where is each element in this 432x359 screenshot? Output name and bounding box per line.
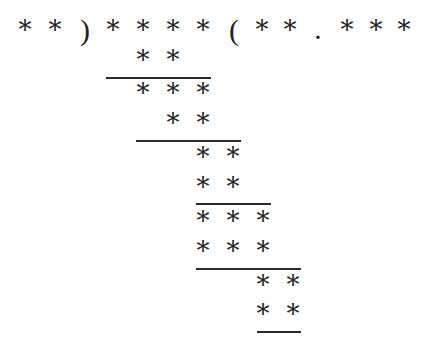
hidden-digit-star: *	[253, 239, 273, 263]
hidden-digit-star: *	[223, 145, 243, 169]
hidden-digit-star: *	[223, 175, 243, 199]
hidden-digit-star: *	[337, 18, 357, 42]
hidden-digit-star: *	[193, 18, 213, 42]
hidden-digit-star: *	[193, 145, 213, 169]
hidden-digit-star: *	[103, 18, 123, 42]
hidden-digit-star: *	[193, 81, 213, 105]
subtraction-line	[106, 77, 211, 79]
hidden-digit-star: *	[223, 239, 243, 263]
hidden-digit-star: *	[253, 209, 273, 233]
hidden-digit-star: *	[193, 209, 213, 233]
decimal-point: .	[308, 18, 328, 42]
hidden-digit-star: *	[193, 175, 213, 199]
hidden-digit-star: *	[394, 18, 414, 42]
hidden-digit-star: *	[163, 48, 183, 72]
hidden-digit-star: *	[133, 18, 153, 42]
subtraction-line	[196, 268, 301, 270]
hidden-digit-star: *	[193, 239, 213, 263]
subtraction-line	[196, 203, 271, 205]
hidden-digit-star: *	[163, 111, 183, 135]
divisor-paren: )	[75, 18, 95, 42]
hidden-digit-star: *	[15, 18, 35, 42]
hidden-digit-star: *	[223, 209, 243, 233]
subtraction-line	[136, 140, 241, 142]
hidden-digit-star: *	[163, 18, 183, 42]
hidden-digit-star: *	[45, 18, 65, 42]
quotient-paren: (	[224, 18, 244, 42]
hidden-digit-star: *	[253, 273, 273, 297]
subtraction-line	[257, 331, 301, 333]
hidden-digit-star: *	[283, 302, 303, 326]
hidden-digit-star: *	[280, 18, 300, 42]
hidden-digit-star: *	[193, 111, 213, 135]
hidden-digit-star: *	[163, 81, 183, 105]
hidden-digit-star: *	[133, 48, 153, 72]
hidden-digit-star: *	[133, 81, 153, 105]
hidden-digit-star: *	[366, 18, 386, 42]
hidden-digit-star: *	[253, 302, 273, 326]
hidden-digit-star: *	[252, 18, 272, 42]
hidden-digit-star: *	[283, 273, 303, 297]
